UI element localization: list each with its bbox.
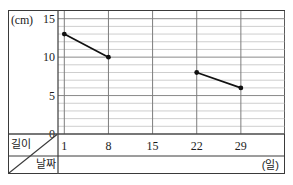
x-axis-tick-label: 1 [61,140,67,152]
data-point-marker[interactable] [106,55,111,60]
x-axis-tick-label: 15 [147,140,159,152]
series-segment [64,34,108,57]
x-axis-tick-label: 29 [235,140,247,152]
y-axis-tick-label: 5 [49,90,55,102]
y-axis-tick-label: 15 [43,13,55,25]
corner-col-label: 날짜 [36,155,56,171]
title-remnant [88,0,208,3]
y-axis-tick-label: 10 [43,51,55,63]
x-axis-unit-label: (일) [262,156,279,172]
plot-svg [58,11,285,134]
line-graph-figure: (cm) 051015 18152229 (일) 길이 날짜 [0,0,293,185]
data-point-marker[interactable] [62,32,67,37]
plot-area [58,11,285,134]
data-point-marker[interactable] [194,70,199,75]
data-point-marker[interactable] [238,85,243,90]
x-axis-tick-label: 22 [191,140,203,152]
corner-legend-cell: 길이 날짜 [8,134,58,174]
x-axis-tick-label: 8 [105,140,111,152]
corner-row-label: 길이 [11,135,31,151]
